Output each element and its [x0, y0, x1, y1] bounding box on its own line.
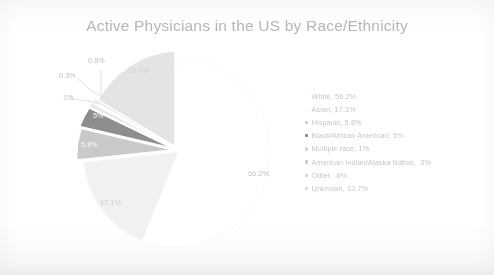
legend-label: Other, .8%	[312, 171, 347, 180]
legend-item[interactable]: Asian, 17.1%	[305, 103, 490, 116]
legend-item[interactable]: American Indian/Alaska Native, .3%	[305, 155, 490, 168]
slice-label-asian: 17.1%	[100, 198, 121, 207]
slice-label-multiple-race: 1%	[63, 93, 74, 102]
slice-label-unknown: 13.7%	[128, 66, 149, 75]
legend-label: Unknown, 13.7%	[312, 184, 369, 193]
callout-leader-lines	[72, 70, 103, 104]
legend-marker-icon	[305, 147, 308, 150]
legend-item[interactable]: Hispanic, 5.8%	[305, 116, 490, 129]
slice-label-hispanic: 5.8%	[81, 140, 98, 149]
legend-item[interactable]: Other, .8%	[305, 169, 490, 182]
slice-label-american-indian: 0.3%	[59, 71, 76, 80]
legend-marker-icon	[305, 187, 308, 190]
legend-marker-icon	[305, 95, 308, 98]
slide-content: Active Physicians in the US by Race/Ethn…	[0, 0, 494, 275]
legend-item[interactable]: Black/African American, 5%	[305, 129, 490, 142]
slice-label-black: 5%	[93, 111, 104, 120]
legend-marker-icon	[305, 174, 308, 177]
legend-label: Asian, 17.1%	[312, 105, 356, 114]
legend-item[interactable]: White, 56.2%	[305, 90, 490, 103]
legend-label: White, 56.2%	[312, 92, 357, 101]
legend-marker-icon	[305, 160, 308, 163]
legend-item[interactable]: Unknown, 13.7%	[305, 182, 490, 195]
legend-label: Multiple race, 1%	[312, 144, 370, 153]
legend-label: Black/African American, 5%	[312, 131, 404, 140]
legend-label: Hispanic, 5.8%	[312, 118, 362, 127]
slide-canvas: Active Physicians in the US by Race/Ethn…	[0, 0, 494, 275]
chart-legend: White, 56.2% Asian, 17.1% Hispanic, 5.8%…	[305, 90, 490, 195]
legend-marker-icon	[305, 121, 308, 124]
legend-item[interactable]: Multiple race, 1%	[305, 142, 490, 155]
legend-label: American Indian/Alaska Native, .3%	[312, 158, 431, 167]
legend-marker-icon	[305, 134, 308, 137]
slice-label-other: 0.8%	[88, 56, 105, 65]
legend-marker-icon	[305, 108, 308, 111]
slice-label-white: 56.2%	[248, 169, 269, 178]
